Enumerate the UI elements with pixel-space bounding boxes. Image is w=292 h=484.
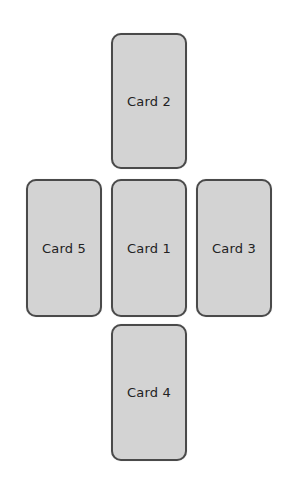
card-2: Card 2 bbox=[111, 33, 187, 169]
card-label: Card 1 bbox=[127, 241, 171, 256]
card-label: Card 3 bbox=[212, 241, 256, 256]
card-4: Card 4 bbox=[111, 324, 187, 461]
card-1: Card 1 bbox=[111, 179, 187, 317]
card-5: Card 5 bbox=[26, 179, 102, 317]
card-label: Card 2 bbox=[127, 94, 171, 109]
card-label: Card 5 bbox=[42, 241, 86, 256]
card-3: Card 3 bbox=[196, 179, 272, 317]
card-label: Card 4 bbox=[127, 385, 171, 400]
